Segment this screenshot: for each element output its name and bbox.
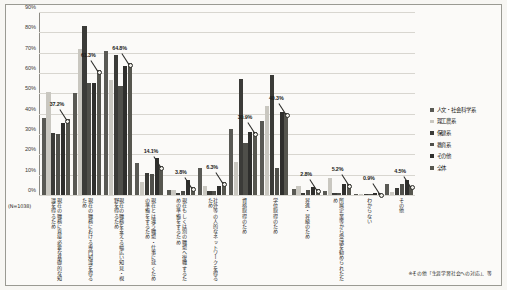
bar	[354, 194, 358, 195]
legend-label: 人文・社会科学系	[437, 106, 476, 114]
bar	[66, 119, 70, 195]
bar	[323, 191, 327, 195]
x-axis-category-label-text: 昇進・昇級のため	[304, 198, 310, 240]
legend-label: 全体	[437, 164, 447, 172]
bar	[114, 55, 118, 195]
bar	[207, 191, 211, 195]
y-axis-tick-label: 70%	[25, 45, 36, 51]
bar	[104, 51, 108, 195]
bar	[198, 168, 202, 195]
legend-label: 教育系	[437, 141, 452, 149]
data-label: 37.2%	[50, 101, 65, 107]
bar	[203, 186, 207, 195]
legend-swatch-icon	[430, 166, 434, 170]
bar	[280, 112, 284, 195]
bar	[368, 194, 372, 195]
data-label: 6.3%	[206, 164, 218, 170]
y-axis-tick-label: 20%	[25, 146, 36, 152]
chart-figure-frame: 0%10%20%30%40%50%60%70%80%90% 37.2%61.3%…	[5, 4, 502, 286]
plot-area: 0%10%20%30%40%50%60%70%80%90% 37.2%61.3%…	[39, 13, 415, 196]
data-label: 64.8%	[112, 45, 127, 51]
data-label: 14.1%	[144, 148, 159, 154]
bar	[296, 186, 300, 195]
x-axis-category-label: わからない	[353, 198, 384, 284]
legend-item[interactable]: 保健系	[430, 127, 500, 139]
y-axis-tick-label: 40%	[25, 106, 36, 112]
bar	[390, 192, 394, 195]
legend-swatch-icon	[430, 143, 434, 147]
bar	[260, 121, 264, 195]
data-label: 4.5%	[394, 168, 406, 174]
legend-label: 理工農系	[437, 117, 457, 125]
x-axis-category-label-text: 現在の職務における専門知識を得るため	[81, 198, 92, 282]
bar	[337, 193, 341, 195]
bar	[373, 193, 377, 195]
bar	[270, 75, 274, 195]
x-axis-category-label-text: 所属企業等から受講を勧められたため	[332, 198, 343, 282]
bar	[342, 184, 346, 195]
bar-group	[228, 13, 259, 195]
y-axis-tick-label: 90%	[25, 4, 36, 10]
legend-item[interactable]: 人文・社会科学系	[430, 104, 500, 116]
chart-legend: 人文・社会科学系理工農系保健系教育系その他全体	[430, 104, 500, 174]
data-label: 3.8%	[175, 169, 187, 175]
bar-groups	[40, 13, 415, 195]
bar	[150, 174, 154, 195]
x-axis-category-label: 現在の職務に直接必要な基礎的な知識を得るため	[40, 198, 71, 284]
legend-label: その他	[437, 152, 452, 160]
x-axis-category-label-text: 資格取得のため	[241, 198, 247, 234]
gridline	[39, 195, 415, 196]
bar	[87, 83, 91, 195]
bar	[292, 189, 296, 195]
legend-item[interactable]: 教育系	[430, 139, 500, 151]
bar	[140, 182, 144, 195]
bar	[123, 66, 127, 195]
bar	[61, 123, 65, 195]
bar	[145, 173, 149, 195]
x-axis-category-label: 資格取得のため	[228, 198, 259, 284]
bar-group	[259, 13, 290, 195]
bar	[217, 186, 221, 195]
x-axis-category-label: 現在もしくは別の職場へ復職するための準備をするため	[165, 198, 196, 284]
x-axis-category-label-text: その他	[398, 198, 404, 214]
bar	[301, 193, 305, 195]
legend-item[interactable]: その他	[430, 150, 500, 162]
bar	[181, 191, 185, 195]
bar-group	[71, 13, 102, 195]
bar	[51, 133, 55, 195]
bar	[284, 113, 288, 195]
bar	[73, 93, 77, 195]
x-axis-category-label: 現在の職務を支える幅広い知見・視野を得るため	[103, 198, 134, 284]
x-axis-category-label-text: 現在の職務に直接必要な基礎的な知識を得るため	[50, 198, 61, 282]
bar	[385, 184, 389, 195]
bar	[234, 162, 238, 195]
bar	[265, 106, 269, 195]
y-axis-tick-label: 0%	[28, 187, 36, 193]
bar	[239, 79, 243, 195]
bar	[400, 184, 404, 195]
x-axis-category-label-text: 現在とは違う職場・仕事に就くための準備をするため	[144, 198, 155, 282]
bar	[311, 187, 315, 195]
bar-group	[290, 13, 321, 195]
y-axis-tick-label: 60%	[25, 65, 36, 71]
data-label: 0.9%	[363, 175, 375, 181]
bar	[332, 193, 336, 195]
legend-swatch-icon	[430, 108, 434, 112]
bar	[167, 190, 171, 195]
bar-group	[353, 13, 384, 195]
data-label: 2.8%	[300, 171, 312, 177]
bar	[328, 178, 332, 195]
bar-group	[165, 13, 196, 195]
sample-size-note: (N=1038)	[8, 203, 31, 209]
figure-footnote: ※その他「生涯学習社会への対応」、等	[409, 269, 492, 276]
legend-item[interactable]: 全体	[430, 162, 500, 174]
y-axis-tick-label: 80%	[25, 24, 36, 30]
legend-item[interactable]: 理工農系	[430, 116, 500, 128]
bar	[253, 132, 257, 195]
bar	[78, 49, 82, 195]
bar	[364, 194, 368, 195]
x-axis-category-label-text: 学位取得のため	[272, 198, 278, 234]
x-axis-category-label: 学位取得のため	[259, 198, 290, 284]
y-axis-tick-label: 10%	[25, 167, 36, 173]
bar	[118, 86, 122, 195]
